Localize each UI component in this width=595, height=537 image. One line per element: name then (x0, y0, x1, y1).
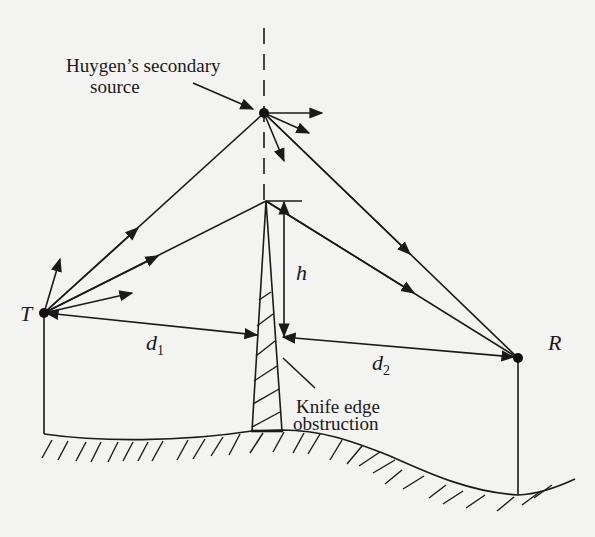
terrain-hatching (42, 432, 552, 511)
huygen-source-node (259, 108, 269, 118)
huygen-label-line2: source (90, 77, 140, 96)
huygen-label-line1: Huygen’s secondary (66, 56, 221, 75)
knife-edge-diagram: Huygen’s secondary source T R h d1 d2 Kn… (0, 0, 595, 537)
receiver-node (513, 353, 523, 363)
ray-source-to-r-arrow (264, 113, 410, 254)
knife-label-line2: obstruction (293, 414, 379, 433)
knife-label-pointer (283, 358, 315, 388)
height-label: h (296, 262, 307, 284)
huygen-pointer-arrow (193, 83, 253, 109)
ray-t-to-knife-arrow (44, 256, 158, 313)
transmitter-label: T (20, 303, 32, 325)
d1-label: d1 (146, 332, 164, 354)
d1-label-sub: 1 (157, 343, 164, 358)
terrain-profile (44, 430, 575, 495)
t-wavelet-arrow (44, 293, 132, 313)
ray-knife-to-r-arrow (266, 201, 414, 293)
d2-label-sub: 2 (383, 363, 390, 378)
receiver-label: R (548, 332, 561, 354)
d1-label-base: d (146, 330, 157, 355)
ray-t-to-source-arrow (44, 228, 138, 313)
d2-distance-arrow (283, 337, 514, 357)
transmitter-node (39, 308, 49, 318)
d2-label: d2 (372, 352, 390, 374)
d2-label-base: d (372, 350, 383, 375)
